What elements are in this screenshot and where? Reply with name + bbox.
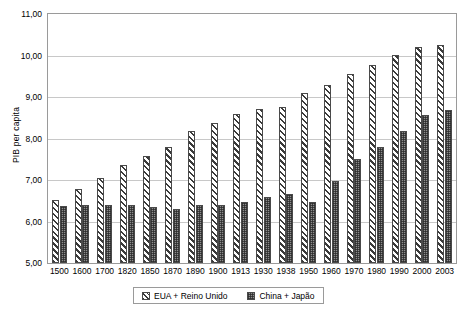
bar <box>369 65 376 263</box>
bar <box>150 207 157 263</box>
bar-chart: PIB per capita 11,0010,009,008,007,006,0… <box>0 0 466 313</box>
bar <box>332 181 339 263</box>
legend-swatch-icon <box>247 292 255 300</box>
x-axis-tick-label: 2003 <box>431 266 459 276</box>
y-axis-tick-label: 11,00 <box>0 9 42 19</box>
y-axis-tick-label: 5,00 <box>0 258 42 268</box>
y-axis-tick-label: 6,00 <box>0 217 42 227</box>
bar <box>52 200 59 263</box>
legend-entry[interactable]: EUA + Reino Unido <box>142 291 227 301</box>
bar <box>241 202 248 263</box>
bar <box>301 93 308 263</box>
bar <box>173 209 180 263</box>
bar <box>218 205 225 263</box>
bar <box>233 114 240 263</box>
bar <box>354 159 361 263</box>
bar <box>264 197 271 263</box>
bar <box>165 147 172 263</box>
bar <box>60 206 67 263</box>
legend-swatch-icon <box>142 292 150 300</box>
bar <box>286 194 293 263</box>
bar <box>422 115 429 263</box>
bar <box>392 55 399 263</box>
y-axis-tick-label: 7,00 <box>0 175 42 185</box>
bar <box>196 205 203 263</box>
bar <box>105 205 112 263</box>
bar <box>211 123 218 263</box>
plot-area <box>47 13 457 264</box>
legend-label: China + Japão <box>259 291 314 301</box>
bar <box>437 45 444 263</box>
legend-label: EUA + Reino Unido <box>154 291 227 301</box>
legend-entry[interactable]: China + Japão <box>247 291 314 301</box>
bar <box>445 110 452 263</box>
bar <box>97 178 104 263</box>
bar <box>143 156 150 263</box>
chart-legend: EUA + Reino UnidoChina + Japão <box>133 287 324 304</box>
y-axis-tick-label: 10,00 <box>0 51 42 61</box>
bar <box>400 131 407 263</box>
bar <box>279 107 286 263</box>
y-axis-tick-label: 8,00 <box>0 134 42 144</box>
bar <box>82 205 89 263</box>
bar <box>256 109 263 263</box>
bar <box>128 205 135 263</box>
bar <box>75 189 82 263</box>
y-axis-tick-label: 9,00 <box>0 92 42 102</box>
x-axis-tick-labels: 1500160017001820185018701890190019131930… <box>47 266 457 282</box>
bar <box>377 147 384 263</box>
bar <box>347 74 354 263</box>
bar <box>120 165 127 263</box>
bar <box>324 85 331 263</box>
bar <box>309 202 316 263</box>
bar <box>188 131 195 263</box>
bar <box>415 47 422 263</box>
